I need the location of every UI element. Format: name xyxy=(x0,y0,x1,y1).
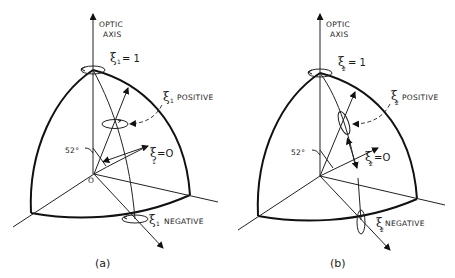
negative-label: NEGATIVE xyxy=(164,217,204,226)
zero-double-arrow xyxy=(108,146,148,160)
panel-caption: (a) xyxy=(95,257,110,270)
xi-symbol: ξ xyxy=(163,90,170,104)
rotation-arrow-icon xyxy=(308,70,312,74)
panel-b: OPTIC AXIS ξ 2 = 1 ξ 2 POSITIVE ξ 2 =O ξ… xyxy=(238,14,445,270)
xi-subscript: 1 xyxy=(152,158,156,165)
positive-label: POSITIVE xyxy=(177,93,213,102)
optic-axis-label-line1: OPTIC xyxy=(99,20,123,29)
sphere-right-meridian xyxy=(93,70,190,195)
zero-label-eq: =O xyxy=(374,152,390,163)
xi-subscript: 2 xyxy=(342,65,346,72)
sphere-right-meridian xyxy=(320,73,417,199)
xi-subscript: 1 xyxy=(156,220,160,227)
sphere-equator-arc xyxy=(258,199,417,221)
optic-axis-label-line2: AXIS xyxy=(330,30,348,39)
inner-meridian xyxy=(320,73,355,165)
rotation-arrow-icon xyxy=(118,120,121,123)
xi-subscript: 2 xyxy=(395,99,399,106)
sphere-left-meridian xyxy=(258,73,320,216)
angle-arc xyxy=(93,148,106,166)
optic-axis-label-line1: OPTIC xyxy=(326,20,350,29)
linear-double-arrow xyxy=(349,143,357,168)
y-axis-line xyxy=(320,176,445,205)
xi-subscript: 2 xyxy=(369,160,373,167)
positive-label: POSITIVE xyxy=(402,93,438,102)
optic-axis-label-line2: AXIS xyxy=(103,30,121,39)
angle-leader xyxy=(312,150,320,155)
panel-a: OPTIC AXIS ξ 1 = 1 ξ 1 POSITIVE ξ 1 =O ξ… xyxy=(13,14,218,270)
y-axis-line xyxy=(94,174,218,202)
sphere-equator-arc xyxy=(31,195,190,218)
origin-label: O xyxy=(88,176,94,185)
negative-direction-arrow xyxy=(320,176,390,250)
angle-label: 52° xyxy=(65,146,79,155)
zero-label-eq: =O xyxy=(157,148,173,159)
xi-subscript: 1 xyxy=(117,58,121,65)
xi-symbol: ξ xyxy=(110,51,117,65)
negative-label: NEGATIVE xyxy=(385,219,425,228)
angle-leader xyxy=(85,148,93,153)
positive-direction-arrow xyxy=(94,88,128,174)
positive-leader-line xyxy=(353,104,390,124)
x-axis-line xyxy=(13,174,94,227)
panel-caption: (b) xyxy=(330,257,346,270)
top-label-eq: = 1 xyxy=(122,53,140,64)
x-axis-line xyxy=(238,176,320,230)
xi-symbol: ξ xyxy=(149,213,156,227)
angle-label: 52° xyxy=(291,148,305,157)
xi-subscript: 2 xyxy=(380,226,384,233)
top-label-eq: = 1 xyxy=(348,57,366,68)
angle-arc xyxy=(320,150,333,168)
negative-direction-arrow xyxy=(94,174,163,248)
xi-subscript: 1 xyxy=(170,97,174,104)
rotation-arrow-icon xyxy=(81,67,85,71)
figure-canvas: OPTIC AXIS ξ 1 = 1 ξ 1 POSITIVE ξ 1 =O ξ… xyxy=(0,0,455,278)
sphere-left-meridian xyxy=(31,70,93,213)
inner-meridian xyxy=(93,70,135,219)
